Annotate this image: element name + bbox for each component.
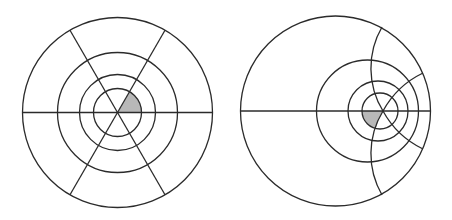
left-polar-grid [23, 18, 213, 208]
arc-spoke-up [371, 27, 383, 111]
arc-spoke-upper-right [383, 73, 423, 111]
diagram-canvas [0, 0, 452, 220]
arc-spoke-lower-right [383, 111, 423, 149]
figure [0, 0, 452, 220]
shaded-sector [118, 92, 142, 113]
right-transformed-grid [241, 16, 431, 206]
shaded-cell [362, 111, 383, 128]
